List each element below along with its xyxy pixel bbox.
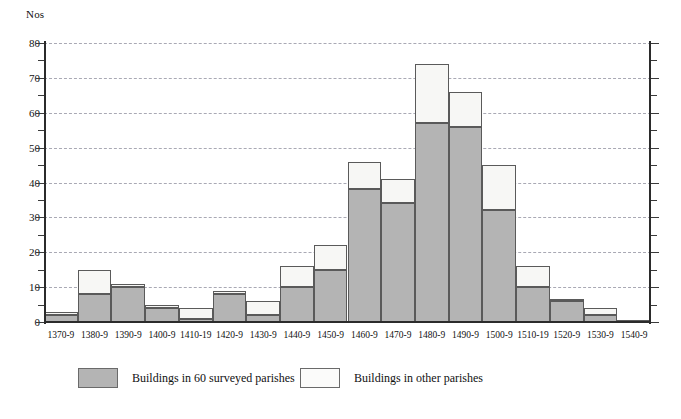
x-tick-label-1480-9: 1480-9	[418, 330, 445, 340]
chart-legend: Buildings in 60 surveyed parishesBuildin…	[0, 368, 681, 398]
y-axis-tick-labels: 01020304050607080	[0, 0, 40, 419]
bar-segment-surveyed[interactable]	[145, 308, 179, 322]
y-tick-label-0: 0	[2, 316, 40, 328]
bar-group[interactable]	[78, 43, 112, 322]
x-tick-label-1380-9: 1380-9	[81, 330, 108, 340]
y-axis-left-spine	[44, 41, 46, 324]
axis-tick-right-80	[651, 43, 659, 44]
bar-group[interactable]	[584, 43, 618, 322]
x-tick-label-1420-9: 1420-9	[216, 330, 243, 340]
axis-tick-left-35	[38, 200, 44, 201]
bar-group[interactable]	[314, 43, 348, 322]
bar-segment-other[interactable]	[314, 245, 348, 269]
x-axis-spine	[44, 321, 651, 323]
bar-segment-other[interactable]	[179, 308, 213, 318]
bar-group[interactable]	[482, 43, 516, 322]
axis-tick-right-10	[651, 287, 659, 288]
bar-segment-surveyed[interactable]	[314, 270, 348, 322]
bar-segment-surveyed[interactable]	[348, 189, 382, 322]
x-tick-label-1500-9: 1500-9	[486, 330, 513, 340]
bar-segment-surveyed[interactable]	[381, 203, 415, 322]
bar-segment-other[interactable]	[348, 162, 382, 190]
bar-segment-other[interactable]	[145, 305, 179, 308]
legend-label: Buildings in 60 surveyed parishes	[132, 371, 295, 386]
bar-group[interactable]	[550, 43, 584, 322]
bar-group[interactable]	[44, 43, 78, 322]
bar-segment-surveyed[interactable]	[516, 287, 550, 322]
bar-segment-surveyed[interactable]	[78, 294, 112, 322]
y-tick-label-10: 10	[2, 281, 40, 293]
bar-group[interactable]	[516, 43, 550, 322]
axis-tick-left-30	[36, 217, 44, 218]
bar-segment-surveyed[interactable]	[482, 210, 516, 322]
bar-segment-other[interactable]	[516, 266, 550, 287]
bar-group[interactable]	[280, 43, 314, 322]
x-tick-label-1430-9: 1430-9	[250, 330, 277, 340]
axis-tick-left-5	[38, 305, 44, 306]
bar-group[interactable]	[617, 43, 651, 322]
x-tick-label-1470-9: 1470-9	[385, 330, 412, 340]
bar-segment-surveyed[interactable]	[213, 294, 247, 322]
x-axis-tick-labels: 1370-91380-91390-91400-91410-191420-9143…	[44, 330, 651, 350]
bar-segment-other[interactable]	[482, 165, 516, 210]
axis-tick-right-50	[651, 148, 659, 149]
legend-item[interactable]: Buildings in other parishes	[300, 368, 483, 388]
x-tick-label-1520-9: 1520-9	[553, 330, 580, 340]
x-tick-label-1390-9: 1390-9	[115, 330, 142, 340]
axis-tick-right-60	[651, 113, 659, 114]
bar-segment-other[interactable]	[550, 299, 584, 301]
bar-segment-surveyed[interactable]	[111, 287, 145, 322]
bar-group[interactable]	[213, 43, 247, 322]
bar-group[interactable]	[111, 43, 145, 322]
bar-group[interactable]	[145, 43, 179, 322]
x-tick-label-1400-9: 1400-9	[149, 330, 176, 340]
x-tick-label-1510-19: 1510-19	[517, 330, 549, 340]
axis-tick-right-20	[651, 252, 659, 253]
bar-group[interactable]	[348, 43, 382, 322]
bar-group[interactable]	[246, 43, 280, 322]
bar-segment-surveyed[interactable]	[415, 123, 449, 322]
axis-tick-left-45	[38, 165, 44, 166]
axis-tick-right-0	[651, 322, 659, 323]
axis-tick-right-70	[651, 78, 659, 79]
plot-area	[44, 43, 651, 322]
x-tick-label-1540-9: 1540-9	[621, 330, 648, 340]
bar-segment-surveyed[interactable]	[550, 301, 584, 322]
bar-segment-other[interactable]	[449, 92, 483, 127]
bar-segment-other[interactable]	[415, 64, 449, 123]
bar-group[interactable]	[381, 43, 415, 322]
bar-group[interactable]	[179, 43, 213, 322]
bar-segment-other[interactable]	[44, 312, 78, 315]
axis-tick-left-25	[38, 235, 44, 236]
bar-segment-other[interactable]	[246, 301, 280, 315]
bar-group[interactable]	[449, 43, 483, 322]
axis-tick-left-80	[36, 43, 44, 44]
y-tick-label-70: 70	[2, 72, 40, 84]
bar-segment-other[interactable]	[213, 291, 247, 294]
bar-segment-surveyed[interactable]	[449, 127, 483, 322]
bar-segment-surveyed[interactable]	[280, 287, 314, 322]
y-tick-label-80: 80	[2, 37, 40, 49]
legend-item[interactable]: Buildings in 60 surveyed parishes	[78, 368, 295, 388]
axis-tick-right-35	[651, 200, 657, 201]
axis-tick-left-70	[36, 78, 44, 79]
bar-group[interactable]	[415, 43, 449, 322]
axis-tick-left-0	[36, 322, 44, 323]
axis-tick-right-40	[651, 183, 659, 184]
y-tick-label-60: 60	[2, 107, 40, 119]
bar-segment-other[interactable]	[381, 179, 415, 203]
bar-segment-other[interactable]	[280, 266, 314, 287]
y-tick-label-20: 20	[2, 246, 40, 258]
axis-tick-right-15	[651, 270, 657, 271]
bar-series-container	[44, 43, 651, 322]
bar-segment-other[interactable]	[111, 284, 145, 287]
axis-tick-left-55	[38, 130, 44, 131]
bar-segment-other[interactable]	[78, 270, 112, 294]
bar-segment-other[interactable]	[584, 308, 618, 315]
legend-swatch-other	[300, 368, 340, 388]
x-tick-label-1410-19: 1410-19	[180, 330, 212, 340]
x-tick-label-1440-9: 1440-9	[283, 330, 310, 340]
legend-swatch-surveyed	[78, 368, 118, 388]
histogram-chart: Nos 01020304050607080 1370-91380-91390-9…	[0, 0, 681, 419]
y-tick-label-50: 50	[2, 142, 40, 154]
